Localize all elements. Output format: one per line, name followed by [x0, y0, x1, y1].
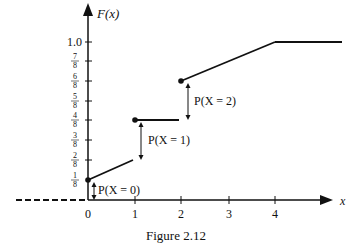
- y-tick-den: 8: [73, 101, 77, 110]
- x-tick-label: 0: [85, 207, 91, 221]
- y-tick-num: 4: [73, 111, 77, 120]
- jump-label-p0: P(X = 0): [98, 183, 140, 197]
- jump-label-p1: P(X = 1): [148, 133, 190, 147]
- y-tick-den: 8: [73, 180, 77, 189]
- x-tick-labels: 0 1 2 3 4: [85, 207, 278, 221]
- x-axis-arrow-icon: [320, 195, 333, 205]
- figure-caption: Figure 2.12: [0, 228, 352, 244]
- y-tick-num: 7: [73, 52, 77, 61]
- y-tick-den: 8: [73, 81, 77, 90]
- y-tick-num: 6: [73, 72, 77, 81]
- jump-label-p2: P(X = 2): [194, 94, 236, 108]
- x-tick-label: 1: [132, 207, 138, 221]
- y-tick-num: 2: [73, 151, 77, 160]
- y-tick-den: 8: [73, 120, 77, 129]
- closed-point: [132, 117, 138, 123]
- y-axis: [83, 3, 93, 200]
- y-fraction-labels: 7 8 6 8 5 8 4 8 3 8 2 8 1 8: [71, 52, 79, 189]
- x-tick-label: 4: [272, 207, 278, 221]
- x-tick-label: 3: [226, 207, 232, 221]
- y-tick-label: 1.0: [67, 35, 82, 49]
- y-tick-den: 8: [73, 61, 77, 70]
- closed-point: [85, 177, 91, 183]
- x-axis-label: x: [339, 194, 346, 208]
- y-tick-den: 8: [73, 160, 77, 169]
- y-tick-num: 3: [73, 131, 77, 140]
- y-axis-label: F(x): [96, 6, 119, 21]
- y-axis-arrow-icon: [83, 3, 93, 16]
- y-tick-num: 5: [73, 92, 77, 101]
- closed-point: [178, 78, 184, 84]
- x-tick-label: 2: [178, 207, 184, 221]
- cdf-figure: F(x) 1.0 7 8 6 8 5 8 4 8 3 8 2 8 1 8 0 1…: [0, 0, 352, 247]
- y-tick-num: 1: [73, 171, 77, 180]
- y-tick-den: 8: [73, 140, 77, 149]
- cdf-curve: [88, 42, 342, 180]
